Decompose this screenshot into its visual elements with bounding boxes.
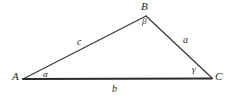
vertex-label-a: A <box>12 71 19 82</box>
angle-label-gamma: γ <box>192 65 196 74</box>
angle-label-beta: β <box>142 17 146 26</box>
side-a-line <box>146 16 212 78</box>
side-label-c: c <box>77 37 81 47</box>
side-c-line <box>23 16 146 79</box>
side-label-b: b <box>112 84 117 94</box>
vertex-label-c: C <box>215 71 222 82</box>
side-b-line <box>23 79 212 80</box>
vertex-label-b: B <box>141 1 148 12</box>
side-label-a: a <box>183 35 188 45</box>
triangle-figure: A B C c a b α β γ <box>0 0 231 99</box>
angle-label-alpha: α <box>43 70 48 79</box>
